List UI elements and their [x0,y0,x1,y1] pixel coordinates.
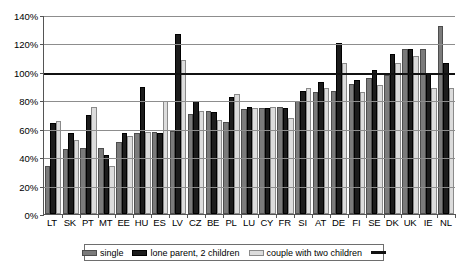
bar [252,108,258,214]
x-axis-labels: LTSKPTMTEEHUESLVCZBEPLLUCYFRSIATDEFISEDK… [43,217,455,232]
y-axis-tick-label: 40% [19,153,38,164]
bar [217,120,223,214]
x-axis-tick-label: PT [79,217,97,232]
legend-item-reference-line [371,251,386,253]
bar-group [133,16,151,214]
reference-line [44,73,455,75]
y-axis-tick [40,158,44,159]
reference-line-swatch-icon [371,251,386,253]
bar-group [437,16,455,214]
y-axis-tick-label: 0% [24,210,38,221]
plot-area [43,16,455,215]
bar [449,88,455,214]
bar [360,92,366,214]
bar-group [366,16,384,214]
x-axis-tick-label: CZ [186,217,204,232]
bar [270,107,276,214]
x-axis-tick-label: BE [204,217,222,232]
x-axis-tick-label: MT [97,217,115,232]
bar [342,63,348,214]
bar-group [241,16,259,214]
bar-group [98,16,116,214]
gridline [44,187,455,188]
y-axis-tick-label: 80% [19,96,38,107]
couple-swatch-icon [249,250,264,256]
bar [413,56,419,214]
bar [288,118,294,214]
gridline [44,101,455,102]
x-axis-tick-label: ES [150,217,168,232]
x-axis-tick-label: IE [419,217,437,232]
gridline [44,44,455,45]
legend-item-lone-parent: lone parent, 2 children [132,248,239,258]
bar [56,121,62,214]
bar-group [259,16,277,214]
x-axis-tick-label: LU [240,217,258,232]
x-axis-tick-label: UK [401,217,419,232]
bar [127,136,133,214]
bar-group [80,16,98,214]
bar-group [187,16,205,214]
bar-group [205,16,223,214]
bar-group [384,16,402,214]
y-axis-tick [40,44,44,45]
bar [181,60,187,214]
bar-group [312,16,330,214]
x-axis-tick-label: SE [365,217,383,232]
bar-group [330,16,348,214]
y-axis-tick-label: 60% [19,124,38,135]
y-axis-tick-label: 100% [14,67,38,78]
y-axis-labels: 0%20%40%60%80%100%120%140% [0,0,42,236]
bar-group [62,16,80,214]
plot-area-wrapper: 0%20%40%60%80%100%120%140% LTSKPTMTEEHUE… [0,0,461,236]
bar-group [419,16,437,214]
bar-group [402,16,420,214]
bar [91,107,97,214]
bar [324,88,330,214]
x-axis-tick-label: DK [383,217,401,232]
y-axis-tick-label: 120% [14,39,38,50]
y-axis-tick [40,101,44,102]
x-axis-tick-label: NL [437,217,455,232]
bar-group [276,16,294,214]
bar [234,94,240,214]
legend-item-couple: couple with two children [249,248,363,258]
legend-label-single: single [100,248,124,258]
bar [306,88,312,214]
y-axis-tick [40,187,44,188]
bar-chart: 0%20%40%60%80%100%120%140% LTSKPTMTEEHUE… [0,0,461,268]
bar [109,166,115,214]
bar-group [294,16,312,214]
bar-group [151,16,169,214]
y-axis-tick [40,130,44,131]
x-axis-tick-label: HU [133,217,151,232]
lone-parent-swatch-icon [132,250,147,256]
gridline [44,16,455,17]
bar [377,85,383,214]
bar [74,140,80,214]
x-axis-tick-label: LT [43,217,61,232]
x-axis-tick-label: SK [61,217,79,232]
x-axis-tick-label: PL [222,217,240,232]
bar [199,111,205,214]
y-axis-tick-label: 20% [19,181,38,192]
bar-groups [44,16,455,214]
x-axis-tick-label: AT [312,217,330,232]
x-axis-tick-label: LV [168,217,186,232]
x-axis-tick-label: DE [330,217,348,232]
x-axis-tick-label: FR [276,217,294,232]
x-axis-tick-label: SI [294,217,312,232]
chart-legend: single lone parent, 2 children couple wi… [84,244,384,261]
x-axis-tick-label: EE [115,217,133,232]
single-swatch-icon [82,250,97,256]
y-axis-tick [40,16,44,17]
x-axis-tick-label: CY [258,217,276,232]
y-axis-tick [40,215,44,216]
x-axis-tick-label: FI [347,217,365,232]
legend-label-couple: couple with two children [267,248,363,258]
y-axis-tick-label: 140% [14,11,38,22]
bar [431,88,437,214]
bar-group [169,16,187,214]
bar-group [348,16,366,214]
legend-item-single: single [82,248,124,258]
